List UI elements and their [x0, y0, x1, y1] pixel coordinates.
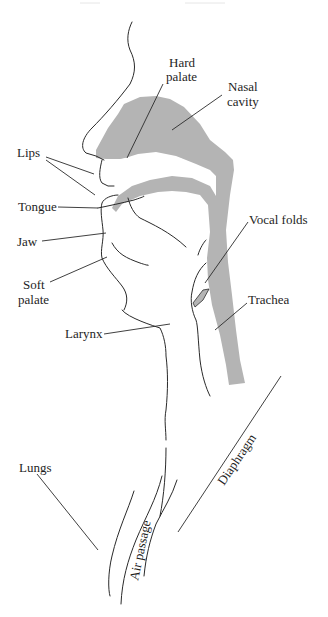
label-larynx: Larynx — [65, 326, 103, 341]
label-jaw: Jaw — [17, 234, 38, 249]
label-hard-palate-line2: palate — [166, 69, 197, 84]
nasal-cavity-shading — [96, 96, 245, 385]
label-tongue: Tongue — [18, 199, 57, 214]
label-nasal-cavity-line1: Nasal — [228, 79, 258, 94]
label-lips: Lips — [17, 145, 40, 160]
label-lungs: Lungs — [19, 460, 52, 475]
leader-lungs — [37, 474, 98, 550]
leader-tongue — [58, 207, 98, 208]
label-hard-palate-line1: Hard — [169, 55, 195, 70]
label-air-passage: Air passage — [126, 519, 153, 582]
leader-jaw — [42, 233, 106, 241]
vocal-fold-shape — [193, 289, 209, 307]
label-trachea: Trachea — [248, 292, 290, 307]
leader-lines — [37, 84, 281, 550]
label-nasal-cavity-line2: cavity — [227, 94, 259, 109]
leader-diaphragm — [178, 376, 281, 532]
speech-organs-diagram: Hard palate Nasal cavity Lips Tongue Jaw… — [0, 0, 328, 617]
label-diaphragm: Diaphragm — [214, 431, 259, 488]
label-soft-palate-line1: Soft — [23, 277, 45, 292]
label-vocal-folds: Vocal folds — [249, 212, 308, 227]
leader-soft-palate — [50, 257, 107, 282]
label-soft-palate-line2: palate — [18, 292, 49, 307]
